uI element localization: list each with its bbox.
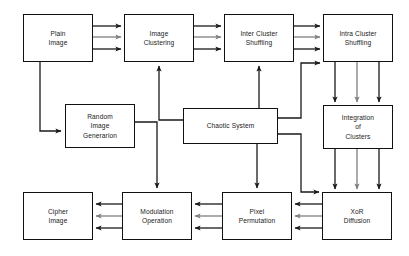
edge-xor-to-permutation <box>295 204 322 228</box>
node-inter-cluster-shuffling[interactable]: Inter Cluster Shuffling <box>224 14 294 62</box>
edge-integration-to-xor <box>335 149 379 189</box>
node-label-pixel-permutation: Pixel Permutation <box>237 207 278 225</box>
node-label-intra-cluster-shuffling: Intra Cluster Shuffling <box>337 29 378 47</box>
edge-chaotic-to-xor <box>278 134 319 192</box>
flowchart-diagram: Plain Image Image Clustering Inter Clust… <box>0 0 409 256</box>
node-plain-image[interactable]: Plain Image <box>23 14 93 62</box>
edge-modulation-to-cipher <box>96 204 122 228</box>
node-random-image-generation[interactable]: Random Image Generarion <box>65 104 135 148</box>
node-intra-cluster-shuffling[interactable]: Intra Cluster Shuffling <box>323 14 393 62</box>
node-chaotic-system[interactable]: Chaotic System <box>183 108 278 144</box>
edge-random-to-modulation <box>135 122 157 188</box>
node-image-clustering[interactable]: Image Clustering <box>124 14 194 62</box>
edge-chaotic-to-clustering <box>159 66 183 120</box>
edge-chaotic-to-intra <box>278 63 320 118</box>
node-label-inter-cluster-shuffling: Inter Cluster Shuffling <box>238 29 279 47</box>
node-label-chaotic-system: Chaotic System <box>205 121 257 130</box>
node-label-plain-image: Plain Image <box>47 29 70 47</box>
node-label-cipher-image: Cipher Image <box>46 207 70 225</box>
edge-inter-to-intra <box>294 26 320 49</box>
edge-intra-to-integration <box>335 62 379 102</box>
node-integration-of-clusters[interactable]: Integration of Clusters <box>323 105 393 149</box>
node-label-integration-of-clusters: Integration of Clusters <box>340 113 376 141</box>
node-cipher-image[interactable]: Cipher Image <box>23 192 93 240</box>
node-xor-diffusion[interactable]: XoR Diffusion <box>322 192 392 240</box>
node-label-image-clustering: Image Clustering <box>142 29 177 47</box>
node-label-xor-diffusion: XoR Diffusion <box>342 207 372 225</box>
edge-plain-to-random <box>40 62 61 131</box>
node-modulation-operation[interactable]: Modulation Operation <box>122 192 192 240</box>
node-label-random-image-generation: Random Image Generarion <box>81 112 119 140</box>
edge-permutation-to-modulation <box>195 204 222 228</box>
edge-plain-to-clustering <box>93 26 121 49</box>
node-pixel-permutation[interactable]: Pixel Permutation <box>222 192 292 240</box>
node-label-modulation-operation: Modulation Operation <box>138 207 175 225</box>
edge-clustering-to-inter <box>194 26 221 49</box>
